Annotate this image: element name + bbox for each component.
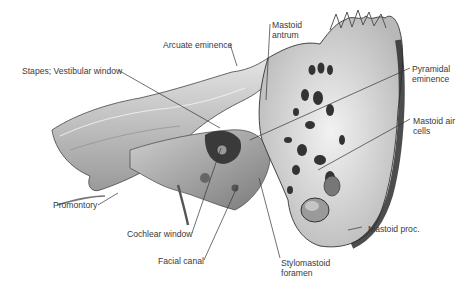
label-mastoid-antrum-line2: antrum — [272, 30, 299, 40]
label-mastoid-air-cells-line1: Mastoid air — [413, 116, 455, 126]
label-stylomastoid-foramen-line1: Stylomastoid — [281, 258, 330, 268]
label-facial-canal: Facial canal — [158, 256, 204, 266]
label-arcuate-eminence: Arcuate eminence — [163, 40, 232, 50]
label-stapes-vestibular-window: Stapes; Vestibular window — [22, 66, 122, 76]
label-pyramidal-eminence-line2: eminence — [412, 74, 449, 84]
label-cochlear-window: Cochlear window — [127, 229, 192, 239]
label-stylomastoid-foramen-line2: foramen — [281, 268, 313, 278]
anatomy-figure: Arcuate eminence Mastoid antrum Stapes; … — [0, 0, 471, 289]
label-pyramidal-eminence-line1: Pyramidal — [412, 64, 450, 74]
label-mastoid-air-cells-line2: cells — [413, 126, 430, 136]
temporal-bone-illustration — [0, 0, 471, 289]
label-promontory: Promontory — [53, 200, 97, 210]
label-mastoid-process: Mastoid proc. — [368, 224, 420, 234]
label-mastoid-antrum-line1: Mastoid — [272, 20, 302, 30]
